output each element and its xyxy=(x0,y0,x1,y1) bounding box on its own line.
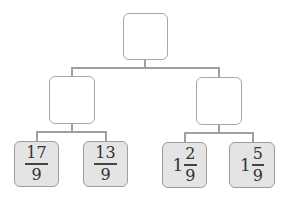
whole-part: 1 xyxy=(172,157,183,174)
leaf-3-drop xyxy=(184,132,186,142)
denominator: 9 xyxy=(185,166,195,184)
leaf-box-3: 1 2 9 xyxy=(162,142,207,188)
root-stem xyxy=(144,59,146,67)
fraction: 13 9 xyxy=(84,142,127,186)
denominator: 9 xyxy=(100,165,110,183)
fraction: 17 9 xyxy=(15,142,58,186)
mixed-number: 1 5 9 xyxy=(230,143,274,187)
leaf-box-4: 1 5 9 xyxy=(229,142,275,188)
mixed-number: 1 2 9 xyxy=(163,143,206,187)
leaf-1-drop xyxy=(36,131,38,141)
right-branch-drop xyxy=(218,67,220,77)
numerator: 5 xyxy=(252,146,264,164)
root-branch-line xyxy=(71,67,219,69)
leaf-4-drop xyxy=(252,132,254,142)
left-middle-stem xyxy=(71,123,73,131)
leaf-box-2: 13 9 xyxy=(83,141,128,187)
whole-part: 1 xyxy=(240,157,251,174)
middle-right-box[interactable] xyxy=(196,77,242,125)
right-leaf-branch-line xyxy=(184,132,253,134)
numerator: 17 xyxy=(25,145,47,163)
root-box[interactable] xyxy=(123,13,168,60)
denominator: 9 xyxy=(253,166,263,184)
leaf-box-1: 17 9 xyxy=(14,141,59,187)
leaf-2-drop xyxy=(105,131,107,141)
numerator: 2 xyxy=(184,146,196,164)
middle-left-box[interactable] xyxy=(49,76,95,124)
denominator: 9 xyxy=(31,165,41,183)
numerator: 13 xyxy=(94,145,116,163)
left-leaf-branch-line xyxy=(36,131,106,133)
right-middle-stem xyxy=(218,124,220,132)
